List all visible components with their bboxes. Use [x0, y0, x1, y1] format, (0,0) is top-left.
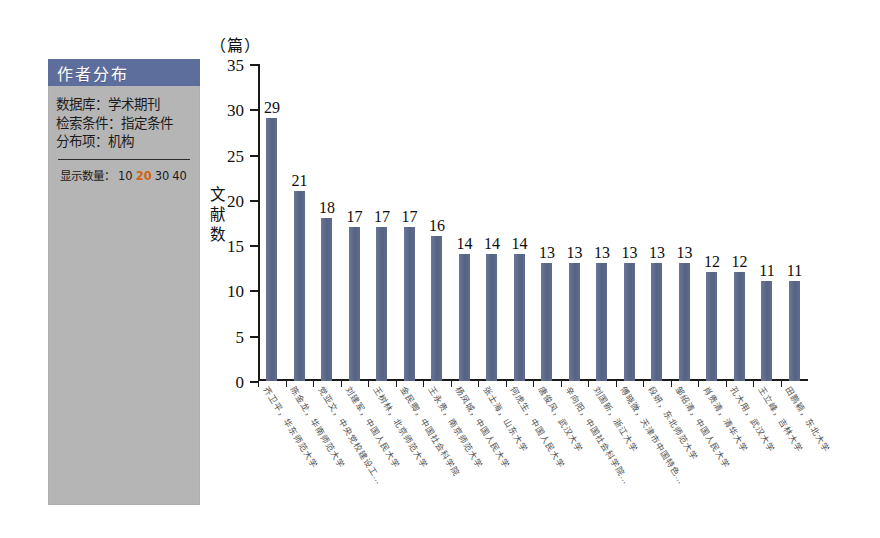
y-tick-label-0: 0	[236, 373, 245, 393]
bar[interactable]: 11	[761, 281, 772, 381]
x-axis-label: 邹绍清，中国人民大学	[674, 385, 732, 470]
y-tick-0: 0	[250, 381, 258, 383]
bar[interactable]: 13	[651, 263, 662, 381]
bar[interactable]: 21	[294, 191, 305, 381]
bar-value-label: 17	[374, 208, 390, 226]
display-count-option-30[interactable]: 30	[155, 169, 170, 183]
y-tick-15: 15	[250, 245, 258, 247]
bar-value-label: 14	[457, 235, 473, 253]
bar[interactable]: 18	[321, 218, 332, 381]
display-count-control: 显示数量：10203040	[56, 167, 192, 183]
bar[interactable]: 29	[266, 118, 277, 381]
bar[interactable]: 12	[734, 272, 745, 381]
y-tick-label-30: 30	[227, 101, 244, 121]
page-root: 作者分布 数据库：学术期刊 检索条件：指定条件 分布项：机构 显示数量：1020…	[0, 0, 880, 538]
bar[interactable]: 14	[459, 254, 470, 381]
y-tick-25: 25	[250, 155, 258, 157]
panel-divider	[58, 159, 190, 160]
x-axis-label: 陈金龙，华南师范大学	[289, 385, 347, 470]
bar[interactable]: 17	[404, 227, 415, 381]
author-distribution-chart: （篇） 文献数 05101520253035 29211817171716141…	[206, 30, 866, 510]
bar[interactable]: 13	[541, 263, 552, 381]
bar-value-label: 14	[512, 235, 528, 253]
bar-value-label: 13	[677, 244, 693, 262]
y-tick-30: 30	[250, 109, 258, 111]
bar-series: 2921181717171614141413131313131312121111	[258, 64, 808, 381]
bar-value-label: 17	[347, 208, 363, 226]
x-axis-label: 段妍，东北师范大学	[646, 385, 699, 462]
display-count-option-20[interactable]: 20	[136, 169, 152, 183]
bar-value-label: 13	[649, 244, 665, 262]
bar-value-label: 13	[594, 244, 610, 262]
y-tick-35: 35	[250, 64, 258, 66]
bar[interactable]: 13	[569, 263, 580, 381]
bar-value-label: 16	[429, 217, 445, 235]
x-axis-label: 刘建军，中国人民大学	[344, 385, 402, 470]
bar-value-label: 13	[567, 244, 583, 262]
y-tick-label-15: 15	[227, 237, 244, 257]
y-tick-5: 5	[250, 336, 258, 338]
bar-value-label: 21	[292, 172, 308, 190]
bar[interactable]: 16	[431, 236, 442, 381]
bar[interactable]: 14	[514, 254, 525, 381]
y-axis-title: 文献数	[209, 185, 227, 245]
bar[interactable]: 14	[486, 254, 497, 381]
bar-value-label: 11	[759, 262, 774, 280]
author-distribution-panel: 作者分布 数据库：学术期刊 检索条件：指定条件 分布项：机构 显示数量：1020…	[48, 59, 200, 505]
plot-area: 05101520253035 2921181717171614141413131…	[258, 64, 808, 381]
bar[interactable]: 12	[706, 272, 717, 381]
panel-row-database: 数据库：学术期刊	[56, 95, 192, 114]
bar-value-label: 18	[319, 199, 335, 217]
x-axis-label: 何虎生，中国人民大学	[509, 385, 567, 470]
bar-value-label: 13	[622, 244, 638, 262]
panel-title: 作者分布	[57, 61, 129, 85]
panel-row-criteria: 检索条件：指定条件	[56, 114, 192, 133]
bar[interactable]: 13	[624, 263, 635, 381]
bar[interactable]: 17	[349, 227, 360, 381]
bar-value-label: 12	[704, 253, 720, 271]
bar-value-label: 14	[484, 235, 500, 253]
bar[interactable]: 13	[679, 263, 690, 381]
y-tick-label-5: 5	[236, 328, 245, 348]
bar-value-label: 13	[539, 244, 555, 262]
bar[interactable]: 13	[596, 263, 607, 381]
bar-value-label: 17	[402, 208, 418, 226]
bar-value-label: 12	[732, 253, 748, 271]
display-count-label: 显示数量：	[60, 169, 115, 183]
x-axis-label: 杨凤城，中国人民大学	[454, 385, 512, 470]
bar[interactable]: 17	[376, 227, 387, 381]
display-count-option-10[interactable]: 10	[118, 169, 133, 183]
bar-value-label: 29	[264, 99, 280, 117]
y-tick-label-10: 10	[227, 282, 244, 302]
y-tick-20: 20	[250, 200, 258, 202]
panel-row-distribution: 分布项：机构	[56, 132, 192, 151]
panel-header: 作者分布	[48, 59, 200, 86]
y-tick-label-20: 20	[227, 192, 244, 212]
y-tick-label-35: 35	[227, 56, 244, 76]
bar[interactable]: 11	[789, 281, 800, 381]
display-count-option-40[interactable]: 40	[172, 169, 187, 183]
bar-value-label: 11	[787, 262, 802, 280]
x-axis-labels: 齐卫平，华东师范大学陈金龙，华南师范大学党亚文，中央党校建设工…刘建军，中国人民…	[258, 381, 858, 511]
panel-body: 数据库：学术期刊 检索条件：指定条件 分布项：机构 显示数量：10203040	[48, 86, 200, 183]
y-tick-label-25: 25	[227, 147, 244, 167]
chart-unit-label: （篇）	[210, 32, 261, 56]
y-tick-10: 10	[250, 290, 258, 292]
